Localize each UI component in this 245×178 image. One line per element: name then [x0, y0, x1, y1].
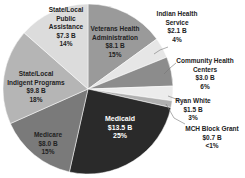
label-veterans: Veterans HealthAdministration$8.1 B15%: [84, 25, 146, 59]
label-medicaid: Medicaid$13.5 B25%: [98, 115, 142, 141]
label-medicare: Medicare$8.0 B15%: [28, 131, 68, 157]
label-indian-health: Indian HealthService$2.1 B4%: [152, 10, 202, 44]
label-public-assistance: State/LocalPublicAssistance$7.3 B14%: [44, 6, 88, 49]
label-ryan-white: Ryan White$1.5 B3%: [172, 97, 214, 123]
label-community-health: Community HealthCenters$3.0 B6%: [170, 57, 240, 91]
label-mch-block-grant: MCH Block Grant$0.7 B<1%: [180, 125, 244, 151]
label-indigent-programs: State/LocalIndigent Programs$9.8 B18%: [6, 70, 66, 104]
